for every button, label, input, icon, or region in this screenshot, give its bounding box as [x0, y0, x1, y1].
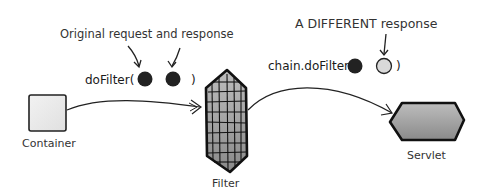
filter-shape: [206, 70, 247, 172]
flow-arrow-to-filter: [67, 101, 200, 110]
arrow-down-icon: [380, 34, 388, 55]
wrapped-response-object-icon: [377, 59, 392, 74]
filter-label: Filter: [212, 177, 240, 190]
dofilter-call-label: doFilter(: [85, 73, 134, 87]
filter-chain-diagram: Original request and response doFilter( …: [0, 0, 488, 195]
servlet-label: Servlet: [407, 149, 447, 162]
container-label: Container: [22, 137, 76, 150]
chain-dofilter-call-label: chain.doFilter(: [268, 59, 354, 73]
container-box: [29, 95, 66, 131]
original-annotation: Original request and response: [60, 27, 234, 41]
arrow-down-icon: [168, 48, 180, 67]
request-object-icon: [348, 59, 363, 74]
dofilter-close-paren: ): [191, 73, 196, 87]
flow-arrow-to-servlet: [248, 88, 392, 113]
different-annotation: A DIFFERENT response: [295, 16, 438, 31]
request-object-icon: [138, 72, 153, 87]
response-object-icon: [166, 72, 181, 87]
servlet-shape: [390, 103, 464, 140]
arrow-down-icon: [128, 46, 141, 67]
chain-dofilter-close-paren: ): [396, 59, 401, 73]
different-annotation-prefix: A DIFFERENT response: [295, 16, 438, 31]
